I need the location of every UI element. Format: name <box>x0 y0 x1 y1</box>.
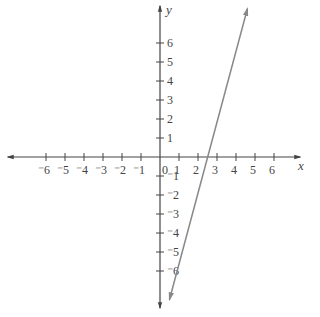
axes: xy <box>8 2 304 308</box>
y-tick-label: 6 <box>167 36 173 50</box>
x-tick-label: 3 <box>212 163 218 177</box>
y-tick-label: ⁻3 <box>167 207 179 221</box>
y-tick-label: ⁻4 <box>167 226 179 240</box>
y-tick-label: ⁻1 <box>167 169 179 183</box>
y-tick-label: 4 <box>167 74 173 88</box>
y-tick-label: 3 <box>167 93 173 107</box>
x-tick-label: ⁻3 <box>95 163 107 177</box>
y-tick-label: 1 <box>167 131 173 145</box>
x-tick-label: 6 <box>269 163 275 177</box>
origin-label: 0 <box>162 163 168 177</box>
y-tick-label: ⁻5 <box>167 245 179 259</box>
x-tick-label: ⁻6 <box>38 163 50 177</box>
x-tick-label: ⁻1 <box>133 163 145 177</box>
x-tick-label: ⁻5 <box>57 163 69 177</box>
coordinate-plane: xy ⁻6⁻5⁻4⁻3⁻2⁻1123456⁻6⁻5⁻4⁻3⁻2⁻11234560 <box>0 0 320 317</box>
x-tick-label: ⁻4 <box>76 163 88 177</box>
x-tick-label: 4 <box>231 163 237 177</box>
x-axis-label: x <box>297 158 304 173</box>
x-tick-label: 5 <box>250 163 256 177</box>
x-tick-label: ⁻2 <box>114 163 126 177</box>
x-tick-label: 2 <box>193 163 199 177</box>
y-tick-label: ⁻2 <box>167 188 179 202</box>
y-tick-label: 5 <box>167 55 173 69</box>
y-tick-label: 2 <box>167 112 173 126</box>
y-axis-label: y <box>164 2 172 17</box>
